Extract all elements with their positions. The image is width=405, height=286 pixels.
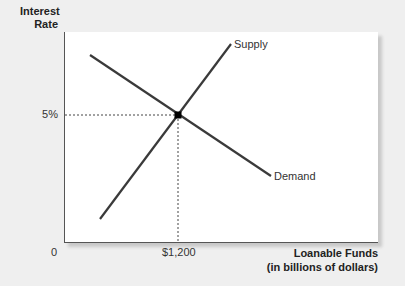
x-axis-label-line2: (in billions of dollars) xyxy=(267,261,378,273)
equilibrium-point xyxy=(175,112,182,119)
origin-label: 0 xyxy=(51,246,57,258)
x-tick-1200: $1,200 xyxy=(162,246,196,258)
demand-label: Demand xyxy=(274,170,316,182)
supply-curve xyxy=(100,44,231,219)
y-tick-5pct: 5% xyxy=(34,108,58,120)
x-axis-label-line1: Loanable Funds xyxy=(294,247,378,259)
y-axis-label-line2: Rate xyxy=(20,18,58,30)
chart-lines xyxy=(0,0,405,286)
supply-label: Supply xyxy=(234,38,268,50)
y-axis-label-line1: Interest xyxy=(20,5,58,17)
